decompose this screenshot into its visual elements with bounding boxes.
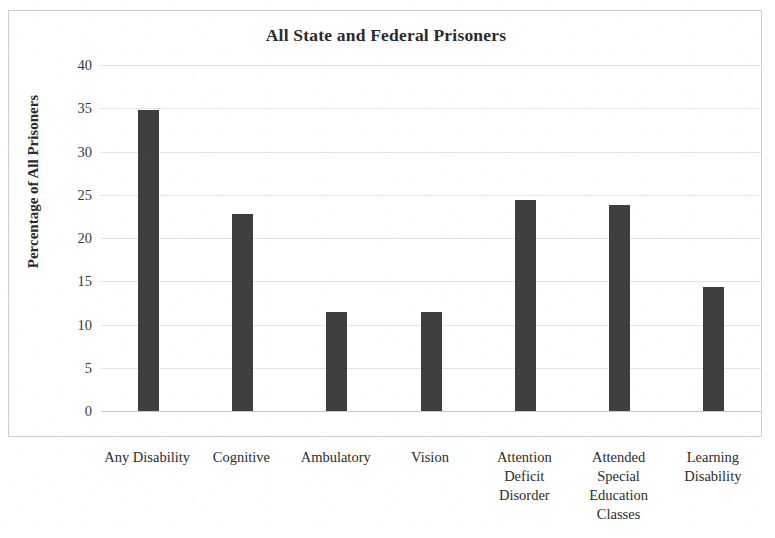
bar [609, 205, 630, 411]
bar [421, 312, 442, 411]
x-axis-label-line: Classes [564, 505, 674, 524]
x-axis-label-line: Education [564, 486, 674, 505]
y-tick-label: 0 [85, 403, 92, 420]
chart-frame: All State and Federal Prisoners Percenta… [8, 10, 762, 437]
gridline [101, 152, 761, 153]
bar [703, 287, 724, 411]
bar [326, 312, 347, 411]
gridline [101, 195, 761, 196]
gridline [101, 65, 761, 66]
gridline [101, 108, 761, 109]
axis-baseline [101, 411, 761, 412]
plot-area: 4035302520151050 [101, 65, 761, 411]
gridline [101, 238, 761, 239]
y-tick-label: 30 [78, 143, 93, 160]
y-tick-label: 35 [78, 100, 93, 117]
y-tick-label: 15 [78, 273, 93, 290]
y-tick-label: 10 [78, 316, 93, 333]
x-axis-label-line: Disability [658, 467, 768, 486]
bar [515, 200, 536, 411]
chart-title: All State and Federal Prisoners [9, 25, 763, 46]
y-tick-label: 5 [85, 359, 92, 376]
y-tick-label: 40 [78, 57, 93, 74]
y-tick-label: 20 [78, 230, 93, 247]
x-axis-category-labels: Any DisabilityCognitiveAmbulatoryVisionA… [100, 448, 760, 538]
bar [138, 110, 159, 411]
bar [232, 214, 253, 411]
x-axis-label: LearningDisability [658, 448, 768, 486]
y-axis-title: Percentage of All Prisoners [25, 72, 42, 292]
y-tick-label: 25 [78, 186, 93, 203]
x-axis-label-line: Learning [658, 448, 768, 467]
gridline [101, 281, 761, 282]
